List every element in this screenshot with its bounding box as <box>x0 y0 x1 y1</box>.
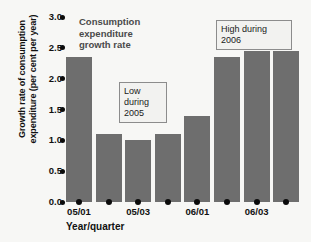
bar <box>66 57 92 202</box>
x-axis-tick-label: 05/01 <box>57 206 101 217</box>
y-axis-tick-label: 0.5 <box>22 165 62 177</box>
x-axis-tick-marker <box>224 199 230 205</box>
x-axis-tick-marker <box>283 199 289 205</box>
y-axis-tick-marker <box>60 138 65 143</box>
y-axis-tick-label: 0.0 <box>22 196 62 208</box>
annotation-high-line1: High during <box>221 24 287 35</box>
annotation-low-line3: 2005 <box>124 108 162 119</box>
y-axis-tick-marker <box>60 76 65 81</box>
y-axis-tick-label: 1.5 <box>22 104 62 116</box>
y-axis-tick-marker <box>60 200 65 205</box>
x-axis-tick-marker <box>165 199 171 205</box>
annotation-low-line1: Low <box>124 86 162 97</box>
x-axis-tick-label: 05/03 <box>116 206 160 217</box>
x-axis-title: Year/quarter <box>66 221 124 232</box>
y-axis-tick-label: 2.5 <box>22 42 62 54</box>
x-axis-tick-label: 06/01 <box>175 206 219 217</box>
x-axis-tick-label: 06/03 <box>235 206 279 217</box>
annotation-low-during-2005: Low during 2005 <box>119 82 167 123</box>
bar <box>184 116 210 202</box>
bar <box>155 134 181 202</box>
y-axis-tick-marker <box>60 169 65 174</box>
bar <box>125 140 151 202</box>
annotation-high-during-2006: High during 2006 <box>216 20 292 50</box>
bar <box>273 51 299 202</box>
y-axis-tick-marker <box>60 107 65 112</box>
bar <box>96 134 122 202</box>
x-axis-tick-marker <box>194 199 200 205</box>
x-axis-tick-marker <box>106 199 112 205</box>
y-axis-tick-marker <box>60 15 65 20</box>
annotation-high-line2: 2006 <box>221 35 287 46</box>
series-title-label: Consumption expenditure growth rate <box>79 16 163 51</box>
bar <box>244 51 270 202</box>
x-axis-tick-marker <box>76 199 82 205</box>
bar <box>214 57 240 202</box>
y-axis-tick-marker <box>60 45 65 50</box>
y-axis-tick-label: 1.0 <box>22 134 62 146</box>
x-axis-tick-marker <box>135 199 141 205</box>
x-axis-tick-marker <box>254 199 260 205</box>
annotation-low-line2: during <box>124 97 162 108</box>
bar-chart-figure: Growth rate of consumption expenditure (… <box>0 0 311 242</box>
y-axis-tick-label: 2.0 <box>22 73 62 85</box>
y-axis-tick-label: 3.0 <box>22 11 62 23</box>
